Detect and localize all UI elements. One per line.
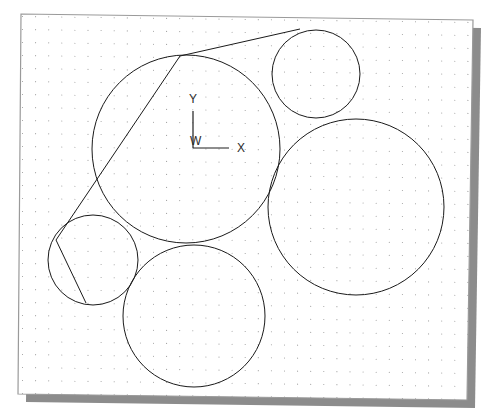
grid-dot	[415, 151, 416, 152]
grid-dot	[232, 58, 233, 59]
grid-dot	[415, 268, 416, 269]
grid-dot	[114, 355, 115, 356]
grid-dot	[205, 70, 206, 71]
grid-dot	[218, 71, 219, 72]
grid-dot	[389, 164, 390, 165]
grid-dot	[74, 43, 75, 44]
grid-dot	[35, 107, 36, 108]
grid-dot	[101, 82, 102, 83]
grid-dot	[415, 138, 416, 139]
grid-dot	[166, 161, 167, 162]
grid-dot	[35, 198, 36, 199]
grid-dot	[336, 280, 337, 281]
grid-dot	[284, 162, 285, 163]
grid-dot	[114, 95, 115, 96]
grid-dot	[87, 264, 88, 265]
grid-dot	[258, 305, 259, 306]
grid-dot	[153, 291, 154, 292]
grid-dot	[179, 317, 180, 318]
grid-dot	[376, 99, 377, 100]
grid-dot	[402, 268, 403, 269]
grid-dot	[192, 278, 193, 279]
grid-dot	[127, 17, 128, 18]
grid-dot	[271, 266, 272, 267]
grid-dot	[441, 321, 442, 322]
drawing-canvas[interactable]: X Y W	[0, 0, 498, 416]
grid-dot	[101, 225, 102, 226]
grid-dot	[245, 318, 246, 319]
grid-dot	[114, 290, 115, 291]
grid-dot	[245, 32, 246, 33]
grid-dot	[297, 150, 298, 151]
grid-dot	[101, 121, 102, 122]
grid-dot	[218, 97, 219, 98]
grid-dot	[232, 240, 233, 241]
grid-dot	[140, 83, 141, 84]
grid-dot	[48, 198, 49, 199]
grid-dot	[376, 21, 377, 22]
grid-dot	[467, 87, 468, 88]
grid-dot	[245, 97, 246, 98]
grid-dot	[258, 19, 259, 20]
grid-dot	[153, 304, 154, 305]
grid-dot	[258, 227, 259, 228]
grid-dot	[389, 73, 390, 74]
grid-dot	[48, 341, 49, 342]
grid-dot	[297, 384, 298, 385]
grid-dot	[127, 69, 128, 70]
grid-dot	[297, 111, 298, 112]
grid-dot	[363, 215, 364, 216]
grid-dot	[402, 216, 403, 217]
grid-dot	[258, 149, 259, 150]
grid-dot	[258, 45, 259, 46]
grid-dot	[166, 291, 167, 292]
grid-dot	[402, 177, 403, 178]
grid-dot	[297, 293, 298, 294]
grid-dot	[363, 163, 364, 164]
grid-dot	[48, 289, 49, 290]
grid-dot	[153, 174, 154, 175]
grid-dot	[454, 295, 455, 296]
grid-dot	[363, 98, 364, 99]
grid-dot	[310, 267, 311, 268]
origin-label: W	[190, 134, 202, 148]
grid-dot	[402, 307, 403, 308]
grid-dot	[376, 255, 377, 256]
grid-dot	[166, 226, 167, 227]
grid-dot	[74, 225, 75, 226]
grid-dot	[428, 151, 429, 152]
grid-dot	[415, 21, 416, 22]
grid-dot	[284, 123, 285, 124]
grid-dot	[415, 177, 416, 178]
grid-dot	[179, 31, 180, 32]
grid-dot	[376, 346, 377, 347]
grid-dot	[363, 280, 364, 281]
grid-dot	[218, 19, 219, 20]
grid-dot	[179, 356, 180, 357]
grid-dot	[166, 369, 167, 370]
grid-dot	[48, 146, 49, 147]
grid-dot	[310, 345, 311, 346]
grid-dot	[179, 135, 180, 136]
grid-dot	[232, 123, 233, 124]
grid-dot	[245, 188, 246, 189]
grid-dot	[48, 380, 49, 381]
grid-dot	[415, 307, 416, 308]
grid-dot	[245, 71, 246, 72]
grid-dot	[297, 358, 298, 359]
grid-dot	[428, 138, 429, 139]
grid-dot	[35, 367, 36, 368]
grid-dot	[48, 94, 49, 95]
grid-dot	[74, 199, 75, 200]
grid-dot	[101, 56, 102, 57]
grid-dot	[205, 278, 206, 279]
grid-dot	[205, 265, 206, 266]
grid-dot	[140, 356, 141, 357]
grid-dot	[428, 99, 429, 100]
grid-dot	[166, 252, 167, 253]
grid-dot	[467, 139, 468, 140]
grid-dot	[205, 31, 206, 32]
grid-dot	[101, 212, 102, 213]
grid-dot	[297, 319, 298, 320]
grid-dot	[349, 72, 350, 73]
